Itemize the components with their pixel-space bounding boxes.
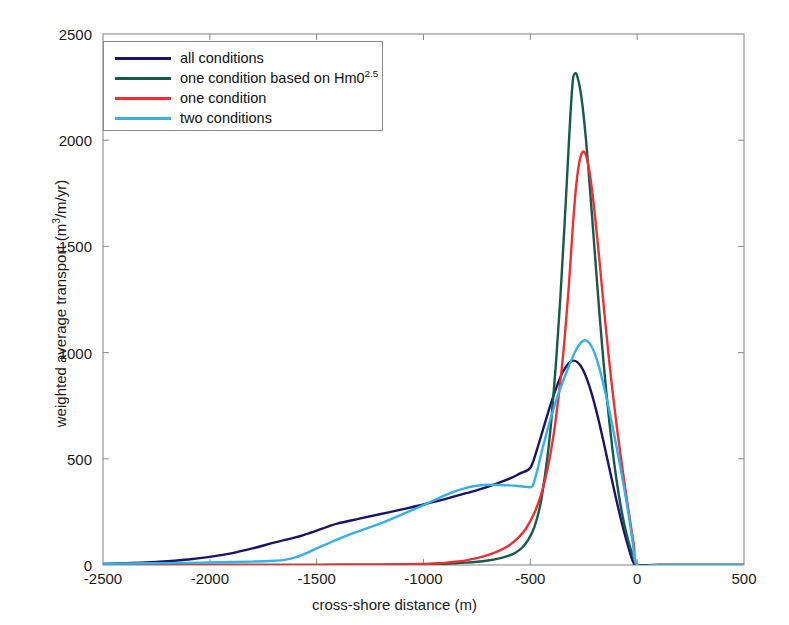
legend-item[interactable]: one condition based on Hm02.5 — [104, 68, 382, 88]
legend-item[interactable]: all conditions — [104, 48, 382, 68]
x-tick-label: 500 — [731, 570, 756, 587]
series-line-one-condition-based-on-hm0-2-5 — [103, 73, 744, 565]
y-tick-label: 2000 — [59, 132, 92, 149]
x-tick-label: -1000 — [404, 570, 442, 587]
y-axis-label-post: /m/yr) — [52, 180, 69, 218]
legend-label-all-conditions: all conditions — [180, 50, 264, 66]
series-group — [103, 73, 744, 566]
x-tick-label: 0 — [633, 570, 641, 587]
legend-label-text: two conditions — [180, 110, 272, 126]
y-tick-label: 2500 — [59, 26, 92, 43]
y-tick-label: 1500 — [59, 238, 92, 255]
legend-label-text: all conditions — [180, 50, 264, 66]
legend-label-one-condition-hm0: one condition based on Hm02.5 — [180, 70, 378, 86]
y-axis-label: weighted average transport (m3/m/yr) — [52, 94, 69, 514]
legend-label-two-conditions: two conditions — [180, 110, 272, 126]
y-tick-label: 1000 — [59, 344, 92, 361]
figure-canvas: weighted average transport (m3/m/yr) cro… — [0, 0, 789, 625]
series-line-two-conditions — [103, 340, 744, 566]
legend-label-text: one condition — [180, 90, 266, 106]
y-tick-label: 500 — [67, 450, 92, 467]
x-tick-label: -500 — [515, 570, 545, 587]
x-tick-label: -1500 — [297, 570, 335, 587]
legend-color-swatch-one-condition-hm0 — [115, 77, 171, 80]
legend-item[interactable]: one condition — [104, 88, 382, 108]
legend-item[interactable]: two conditions — [104, 108, 382, 128]
y-axis-label-exponent: 3 — [51, 218, 62, 224]
chart-legend: all conditions one condition based on Hm… — [103, 41, 383, 131]
legend-label-text: one condition based on Hm0 — [180, 70, 365, 86]
legend-label-exponent: 2.5 — [365, 68, 379, 79]
x-axis-label: cross-shore distance (m) — [0, 596, 789, 613]
legend-color-swatch-two-conditions — [115, 117, 171, 120]
x-tick-label: -2000 — [191, 570, 229, 587]
series-line-all-conditions — [103, 361, 744, 566]
y-tick-label: 0 — [84, 557, 92, 574]
legend-color-swatch-all-conditions — [115, 57, 171, 60]
legend-color-swatch-one-condition — [115, 97, 171, 100]
legend-label-one-condition: one condition — [180, 90, 266, 106]
